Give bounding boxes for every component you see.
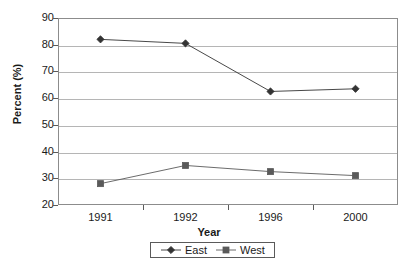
y-axis-title: Percent (%) [11,39,23,149]
y-axis-tick-mark [53,205,58,206]
y-axis-tick-label: 60 [24,92,54,103]
data-point-marker [183,162,189,168]
legend-label: East [185,244,207,256]
x-axis-tick-mark [313,205,314,210]
data-point-marker [353,173,359,179]
x-axis-tick-label: 1996 [236,211,306,223]
legend-marker-diamond-icon [160,245,182,255]
series-line-west [101,165,356,183]
chart-legend: EastWest [150,242,275,258]
y-axis-tick-label: 70 [24,65,54,76]
x-axis-tick-mark [228,205,229,210]
series-line-east [101,39,356,91]
data-point-marker [268,169,274,175]
legend-item-east[interactable]: East [160,244,207,256]
x-axis-tick-mark [143,205,144,210]
series-layer [58,18,398,205]
y-axis-tick-label: 50 [24,119,54,130]
data-point-marker [98,181,104,187]
legend-label: West [240,244,265,256]
line-chart: 2030405060708090 1991199219962000 Percen… [0,0,418,264]
data-point-marker [97,36,104,43]
data-point-marker [223,247,229,253]
data-point-marker [182,40,189,47]
x-axis-tick-label: 1992 [151,211,221,223]
legend-marker-square-icon [215,245,237,255]
legend-item-west[interactable]: West [215,244,265,256]
x-axis-tick-label: 2000 [321,211,391,223]
data-point-marker [352,85,359,92]
y-axis-tick-label: 20 [24,199,54,210]
y-axis-tick-label: 80 [24,39,54,50]
data-point-marker [267,88,274,95]
x-axis-tick-label: 1991 [66,211,136,223]
x-axis-title: Year [0,226,418,238]
data-point-marker [167,246,174,253]
y-axis-tick-label: 30 [24,172,54,183]
y-axis-tick-label: 90 [24,12,54,23]
y-axis-tick-label: 40 [24,146,54,157]
